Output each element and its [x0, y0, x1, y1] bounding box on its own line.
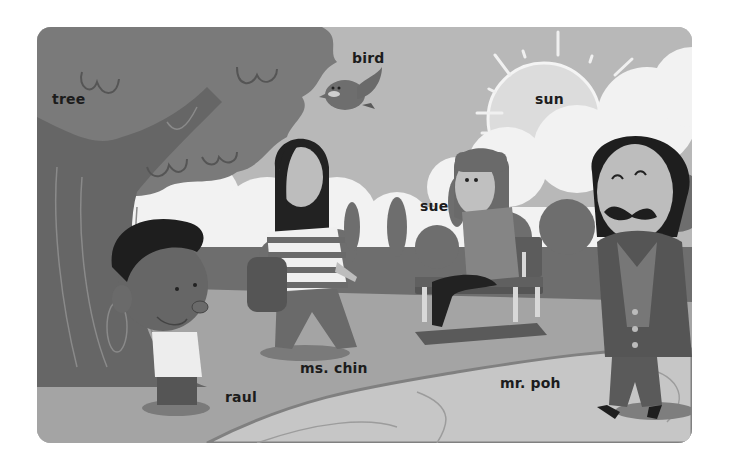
label-sun: sun [535, 92, 564, 106]
label-raul: raul [225, 390, 257, 404]
label-bird: bird [352, 51, 385, 65]
label-sue: sue [420, 199, 448, 213]
label-ms-chin: ms. chin [300, 361, 368, 375]
park-scene [37, 27, 692, 443]
label-mr-poh: mr. poh [500, 376, 561, 390]
label-tree: tree [52, 92, 85, 106]
park-illustration: tree bird sun sue ms. chin raul mr. poh [37, 27, 692, 443]
